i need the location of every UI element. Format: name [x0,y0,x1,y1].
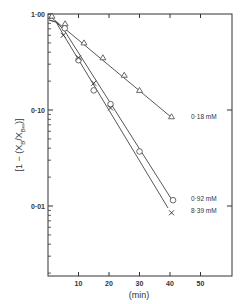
x-tick-label: 10 [75,280,83,287]
y-tick-label: 0·10 [31,107,45,114]
x-tick-label: 50 [197,280,205,287]
circle-marker [170,197,176,203]
circle-marker [91,88,97,94]
series-label: 0·18 mM [191,113,217,120]
series-label: 0·92 mM [191,195,217,202]
circle-marker [62,25,68,31]
y-tick-label: 0·01 [31,203,45,210]
x-axis-title: (min) [129,290,150,300]
fit-line-2 [49,20,168,208]
y-axis-ticks: 1·000·100·01 [31,11,232,274]
fit-lines [49,17,172,208]
triangle-marker [100,55,106,60]
y-axis-title: [1 − (XB/XB∞)] [14,118,26,171]
series-label: 8·39 mM [191,207,217,214]
data-markers [49,13,176,215]
y-tick-label: 1·00 [31,11,45,18]
series-labels: 0·18 mM0·92 mM8·39 mM [191,113,217,214]
fit-line-1 [49,20,172,200]
chart: 1020304050 1·000·100·01 0·18 mM0·92 mM8·… [0,0,245,304]
triangle-marker [137,87,143,92]
triangle-marker [62,21,68,26]
triangle-marker [169,114,175,119]
svg-text:[1 − (XB/XB∞)]: [1 − (XB/XB∞)] [14,118,26,171]
x-tick-label: 20 [105,280,113,287]
x-tick-label: 30 [136,280,144,287]
plot-frame [48,14,232,276]
x-tick-label: 40 [166,280,174,287]
cross-marker [169,210,174,215]
circle-marker [137,149,143,155]
triangle-marker [121,72,127,77]
